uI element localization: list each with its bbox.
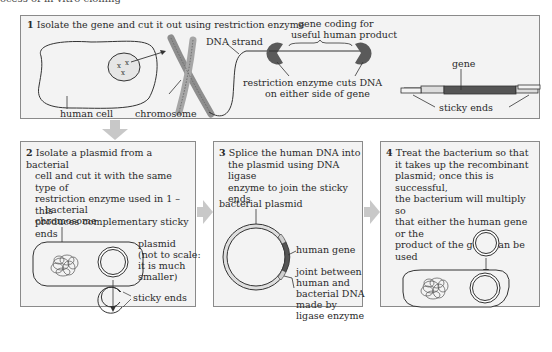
- flow-arrow-down-icon: [100, 120, 130, 142]
- label-plasmid-4: smaller): [138, 271, 178, 282]
- label-joint-3: bacterial DNA: [296, 288, 365, 299]
- step-2-illustration: [21, 142, 197, 308]
- label-plasmid-3: it is much: [138, 260, 185, 271]
- label-plasmid-1: plasmid: [138, 238, 176, 249]
- label-human-cell: human cell: [60, 108, 113, 119]
- panel-step-2: 2Isolate a plasmid from a bacterial cell…: [20, 141, 196, 307]
- label-gene: gene: [452, 58, 475, 69]
- label-joint-1: joint between: [296, 266, 362, 277]
- label-dna-strand: DNA strand: [206, 36, 263, 47]
- label-sticky-ends: sticky ends: [133, 292, 187, 303]
- label-human-gene: human gene: [296, 244, 356, 255]
- label-joint-2: human and: [296, 277, 350, 288]
- label-gene-coding-1: gene coding for: [298, 18, 374, 29]
- step-4-illustration: [381, 142, 541, 308]
- svg-text:x: x: [121, 69, 125, 77]
- panel-step-1: 1Isolate the gene and cut it out using r…: [20, 15, 540, 119]
- label-joint-4: made by: [296, 299, 337, 310]
- label-plasmid-2: (not to scale:: [138, 249, 201, 260]
- label-gene-coding-2: useful human product: [291, 29, 397, 40]
- panel-step-4: 4Treat the bacterium so that it takes up…: [380, 141, 540, 307]
- flow-arrow-right-icon: [364, 200, 380, 224]
- svg-text:x: x: [125, 59, 129, 67]
- label-sticky-ends: sticky ends: [439, 102, 493, 113]
- panel-step-3: 3Splice the human DNA into the plasmid u…: [213, 141, 363, 307]
- label-enzyme-cuts-2: on either side of gene: [265, 88, 370, 99]
- label-joint-5: ligase enzyme: [296, 310, 364, 321]
- figure-caption: ocess of in vitro cloning: [0, 0, 121, 4]
- label-chromosome: chromosome: [135, 108, 197, 119]
- label-enzyme-cuts-1: restriction enzyme cuts DNA: [243, 77, 382, 88]
- flow-arrow-right-icon: [197, 200, 213, 224]
